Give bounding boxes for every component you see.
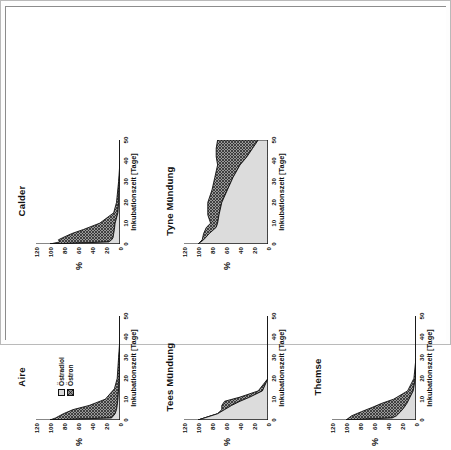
- x-tick-aire-20: 20: [122, 375, 129, 382]
- y-tick-tees-40: 40: [237, 423, 244, 430]
- x-tick-calder-40: 40: [122, 157, 129, 164]
- plot-area-tyne: 120 100 80 60 40 20 0 0 10 20 30 40 50: [184, 140, 268, 244]
- chart-title-themse: Themse: [312, 302, 323, 450]
- y-tick-tyne-120: 120: [181, 247, 188, 257]
- y-tick-aire-80: 80: [60, 423, 67, 430]
- x-tick-tyne-10: 10: [270, 220, 277, 227]
- plot-area-calder: 120 100 80 60 40 20 0 0 10 20 30 40 50: [36, 140, 120, 244]
- chart-svg-tees: [184, 316, 268, 420]
- x-tick-tyne-30: 30: [270, 178, 277, 185]
- y-tick-aire-100: 100: [47, 423, 54, 433]
- y-tick-tyne-40: 40: [237, 247, 244, 254]
- x-tick-themse-20: 20: [418, 375, 425, 382]
- y-tick-themse-0: 0: [413, 423, 420, 426]
- figure-estrogen-degradation: Aire % Inkubationszeit [Tage] 120 100 80…: [6, 113, 451, 450]
- x-tick-tyne-0: 0: [270, 242, 277, 245]
- plot-area-tees: 120 100 80 60 40 20 0 0 10 20 30 40 50: [184, 316, 268, 420]
- y-tick-themse-80: 80: [356, 423, 363, 430]
- hatched-square-icon: [67, 389, 74, 396]
- x-axis-label-themse: Inkubationszeit [Tage]: [425, 316, 434, 420]
- y-tick-calder-60: 60: [75, 247, 82, 254]
- y-tick-calder-40: 40: [89, 247, 96, 254]
- x-tick-aire-0: 0: [122, 418, 129, 421]
- y-tick-tyne-20: 20: [250, 247, 257, 254]
- y-tick-calder-0: 0: [117, 247, 124, 250]
- y-tick-calder-20: 20: [102, 247, 109, 254]
- y-axis-label-tyne: %: [222, 262, 232, 270]
- y-tick-calder-100: 100: [47, 247, 54, 257]
- x-tick-calder-30: 30: [122, 178, 129, 185]
- legend-label-oestradiol: Östradiol: [58, 357, 65, 386]
- legend-swatches: Östradiol Östron: [58, 357, 74, 396]
- x-tick-themse-0: 0: [418, 418, 425, 421]
- chart-panel-tees-muendung: Tees Mündung % Inkubationszeit [Tage] 12…: [162, 302, 294, 450]
- y-axis-label-tees: %: [222, 438, 232, 446]
- y-tick-aire-20: 20: [102, 423, 109, 430]
- chart-title-tyne-muendung: Tyne Mündung: [164, 126, 175, 276]
- y-axis-label-calder: %: [74, 262, 84, 270]
- chart-title-calder: Calder: [16, 126, 27, 276]
- chart-panel-tyne-muendung: Tyne Mündung % Inkubationszeit [Tage] 12…: [162, 126, 294, 276]
- x-axis-label-tyne: Inkubationszeit [Tage]: [277, 140, 286, 244]
- chart-panel-aire: Aire % Inkubationszeit [Tage] 120 100 80…: [14, 302, 146, 450]
- y-tick-themse-40: 40: [385, 423, 392, 430]
- x-axis-label-aire: Inkubationszeit [Tage]: [129, 316, 138, 420]
- chart-title-tees-muendung: Tees Mündung: [164, 302, 175, 450]
- y-tick-tyne-0: 0: [265, 247, 272, 250]
- y-tick-tyne-80: 80: [208, 247, 215, 254]
- x-axis-label-tees: Inkubationszeit [Tage]: [277, 316, 286, 420]
- x-tick-calder-20: 20: [122, 199, 129, 206]
- y-tick-tyne-100: 100: [195, 247, 202, 257]
- y-tick-themse-20: 20: [398, 423, 405, 430]
- x-tick-aire-10: 10: [122, 396, 129, 403]
- x-tick-tyne-40: 40: [270, 157, 277, 164]
- y-tick-themse-120: 120: [329, 423, 336, 433]
- x-tick-tyne-50: 50: [270, 137, 277, 144]
- y-tick-calder-80: 80: [60, 247, 67, 254]
- x-tick-aire-50: 50: [122, 313, 129, 320]
- x-tick-tyne-20: 20: [270, 199, 277, 206]
- y-tick-aire-120: 120: [33, 423, 40, 433]
- x-tick-themse-40: 40: [418, 333, 425, 340]
- y-tick-aire-40: 40: [89, 423, 96, 430]
- chart-svg-themse: [332, 316, 416, 420]
- x-tick-themse-10: 10: [418, 396, 425, 403]
- x-tick-tees-0: 0: [270, 418, 277, 421]
- chart-title-aire: Aire: [16, 302, 27, 450]
- x-tick-calder-10: 10: [122, 220, 129, 227]
- y-tick-tees-80: 80: [208, 423, 215, 430]
- x-axis-label-calder: Inkubationszeit [Tage]: [129, 140, 138, 244]
- x-tick-tees-10: 10: [270, 396, 277, 403]
- y-axis-label-aire: %: [74, 438, 84, 446]
- x-tick-tees-30: 30: [270, 354, 277, 361]
- x-tick-themse-30: 30: [418, 354, 425, 361]
- page-content-area: Aire % Inkubationszeit [Tage] 120 100 80…: [5, 6, 446, 340]
- x-tick-aire-30: 30: [122, 354, 129, 361]
- x-tick-calder-0: 0: [122, 242, 129, 245]
- legend-item-oestradiol: Östradiol: [58, 357, 65, 396]
- y-tick-tees-0: 0: [265, 423, 272, 426]
- x-tick-aire-40: 40: [122, 333, 129, 340]
- chart-svg-aire: [36, 316, 120, 420]
- rotated-figure-stage: Aire % Inkubationszeit [Tage] 120 100 80…: [6, 113, 451, 450]
- y-tick-tees-20: 20: [250, 423, 257, 430]
- legend: Östradiol Östron: [58, 357, 74, 396]
- plot-area-themse: 120 100 80 60 40 20 0 0 10 20 30 40 50: [332, 316, 416, 420]
- y-tick-themse-100: 100: [343, 423, 350, 433]
- y-axis-label-themse: %: [370, 438, 380, 446]
- x-tick-calder-50: 50: [122, 137, 129, 144]
- x-tick-tees-50: 50: [270, 313, 277, 320]
- y-tick-aire-0: 0: [117, 423, 124, 426]
- x-tick-themse-50: 50: [418, 313, 425, 320]
- chart-svg-calder: [36, 140, 120, 244]
- y-tick-tees-100: 100: [195, 423, 202, 433]
- x-tick-tees-20: 20: [270, 375, 277, 382]
- y-tick-themse-60: 60: [371, 423, 378, 430]
- light-square-icon: [58, 389, 65, 396]
- y-tick-tees-60: 60: [223, 423, 230, 430]
- chart-panel-themse: Themse % Inkubationszeit [Tage] 120 100 …: [310, 302, 442, 450]
- legend-item-oestron: Östron: [67, 357, 74, 396]
- y-tick-aire-60: 60: [75, 423, 82, 430]
- plot-area-aire: 120 100 80 60 40 20 0 0 10 20 30 40 50: [36, 316, 120, 420]
